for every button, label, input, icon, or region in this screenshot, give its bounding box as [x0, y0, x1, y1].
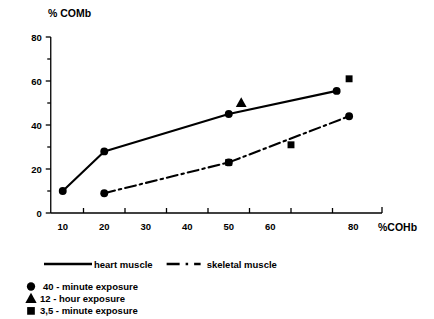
co-binding-chart: % COMb %COHb 020406080 10203040506080 he…	[0, 0, 434, 319]
data-point-marker	[59, 187, 67, 195]
y-tick-label: 0	[36, 208, 41, 219]
x-tick-label: 60	[265, 221, 276, 232]
line-legend: heart muscleskeletal muscle	[44, 259, 277, 270]
marker-legend-label: 3,5 - minute exposure	[40, 305, 138, 316]
x-tick-label: 40	[182, 221, 193, 232]
data-point-marker	[288, 141, 295, 148]
axes	[46, 37, 382, 213]
y-tick-label: 40	[31, 120, 42, 131]
x-tick-label: 10	[57, 221, 68, 232]
chart-figure: % COMb %COHb 020406080 10203040506080 he…	[0, 0, 434, 319]
marker-legend-square-icon	[27, 307, 35, 315]
x-tick-label: 50	[223, 221, 234, 232]
x-tick-label: 30	[140, 221, 151, 232]
data-point-marker	[225, 159, 232, 166]
marker-legend-circle-icon	[27, 282, 35, 290]
series-line	[104, 116, 349, 193]
data-point-marker	[345, 112, 353, 120]
data-point-marker	[100, 189, 108, 197]
series-lines	[63, 91, 349, 193]
data-point-marker	[225, 110, 233, 118]
x-axis-title: %COHb	[378, 221, 417, 233]
marker-legend: 40 - minute exposure12 - hour exposure3,…	[25, 281, 138, 316]
x-tick-label: 80	[348, 221, 359, 232]
marker-legend-triangle-icon	[25, 293, 36, 303]
legend-label-heart-muscle: heart muscle	[94, 259, 153, 270]
series-line	[63, 91, 337, 191]
series-markers	[59, 87, 353, 197]
data-point-marker	[236, 97, 247, 107]
y-tick-label: 80	[31, 32, 42, 43]
y-axis-title: % COMb	[48, 7, 91, 19]
data-point-marker	[346, 75, 353, 82]
y-tick-labels: 020406080	[31, 32, 42, 219]
x-tick-labels: 10203040506080	[57, 221, 358, 232]
marker-legend-label: 40 - minute exposure	[43, 281, 138, 292]
y-tick-label: 20	[31, 164, 42, 175]
legend-label-skeletal-muscle: skeletal muscle	[207, 259, 277, 270]
x-tick-label: 20	[99, 221, 110, 232]
marker-legend-label: 12 - hour exposure	[40, 293, 125, 304]
y-tick-label: 60	[31, 76, 42, 87]
data-point-marker	[100, 147, 108, 155]
data-point-marker	[333, 87, 341, 95]
